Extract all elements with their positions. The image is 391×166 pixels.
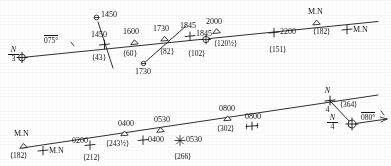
fix-2200-distance: ⟨151⟩ xyxy=(269,46,286,54)
fix-2200-time: 2200 xyxy=(280,28,296,36)
fix-0400-cross-time: 0400 xyxy=(148,136,164,144)
bearing-080-label: 080° xyxy=(361,112,375,122)
station-n4-arrival-top: N xyxy=(327,114,338,122)
bearing-075-tick xyxy=(71,42,74,46)
fix-0400-distance: ⟨243½⟩ xyxy=(106,140,129,148)
fix-1730-time: 1730 xyxy=(153,25,169,33)
marker-fix-2000 xyxy=(213,29,220,34)
marker-fix-0400-cross xyxy=(138,136,148,145)
chart-sheet: N 3 075° 1450 1450 ⟨43⟩ 1600 ⟨60⟩ 1730 ⟨… xyxy=(0,0,391,166)
fix-mn-triangle-bottom-distance: ⟨182⟩ xyxy=(10,152,27,160)
station-n3-bottom: 3 xyxy=(8,55,19,63)
marker-fix-mn-triangle-top xyxy=(313,20,320,25)
offline-fix-1730-label: 1730 xyxy=(135,68,151,76)
fix-1730-distance: ⟨82⟩ xyxy=(160,48,174,56)
fix-0400-triangle-time: 0400 xyxy=(118,120,134,128)
fix-2000-distance: ⟨120½⟩ xyxy=(214,40,237,48)
marker-fix-1600 xyxy=(131,40,138,45)
marker-offline-1450 xyxy=(94,15,99,20)
fix-0800-distance: ⟨302⟩ xyxy=(217,125,234,133)
marker-fix-mn-cross-bottom xyxy=(38,146,48,155)
station-label-n4-on-line: N 4 xyxy=(322,87,333,103)
fix-mn-triangle-bottom-time: M.N xyxy=(14,130,29,138)
station-label-n4-arrival: N 4 xyxy=(327,114,338,131)
fix-1450-time: 1450 xyxy=(91,31,107,39)
station-label-n3: N 3 xyxy=(8,46,19,63)
station-n4-arrival-bottom: 4 xyxy=(327,123,338,131)
fix-0200-distance: ⟨212⟩ xyxy=(83,154,100,162)
bearing-080-tick xyxy=(381,111,384,115)
marker-offline-1730 xyxy=(141,61,145,65)
fix-1450-distance: ⟨43⟩ xyxy=(92,54,106,62)
fix-0800-cross-time: 0800 xyxy=(245,113,261,121)
station-n4-line-top: N xyxy=(322,87,333,95)
fix-mn-cross-bottom-time: M.N xyxy=(49,147,64,155)
fix-0530-star-time: 0530 xyxy=(186,136,202,144)
offline-fix-1450-label: 1450 xyxy=(101,11,117,19)
marker-fix-1845-cross xyxy=(185,32,195,41)
marker-fix-1450 xyxy=(100,40,110,49)
marker-fix-mn-cross-top xyxy=(342,25,352,34)
fix-1845-circled-time: 1845 xyxy=(196,30,212,38)
fix-0530-triangle-time: 0530 xyxy=(154,116,170,124)
fix-mn-triangle-top-distance: ⟨182⟩ xyxy=(313,28,330,36)
fix-mn-cross-top-time: M.N xyxy=(353,26,368,34)
bearing-075-label: 075° xyxy=(44,35,58,45)
end-distance-364: ⟨364⟩ xyxy=(340,101,357,109)
fix-1845-cross-time: 1845 xyxy=(180,22,196,30)
marker-fix-2200 xyxy=(269,28,279,37)
fix-0800-triangle-time: 0800 xyxy=(219,105,235,113)
fix-1845-circled-distance: ⟨102⟩ xyxy=(188,50,205,58)
marker-fix-mn-triangle-bottom xyxy=(20,144,27,149)
fix-2000-time: 2000 xyxy=(206,18,222,26)
station-n3-top: N xyxy=(8,46,19,54)
fix-mn-triangle-top-time: M.N xyxy=(308,8,323,16)
marker-fix-0530-star xyxy=(175,136,185,146)
marker-fix-0800-cross xyxy=(246,122,258,130)
marker-fix-1730 xyxy=(161,36,168,41)
fix-0530-distance: ⟨266⟩ xyxy=(174,153,191,161)
fix-0200-time: 0200 xyxy=(72,137,88,145)
fix-1600-time: 1600 xyxy=(123,28,139,36)
fix-1600-distance: ⟨60⟩ xyxy=(123,50,137,58)
